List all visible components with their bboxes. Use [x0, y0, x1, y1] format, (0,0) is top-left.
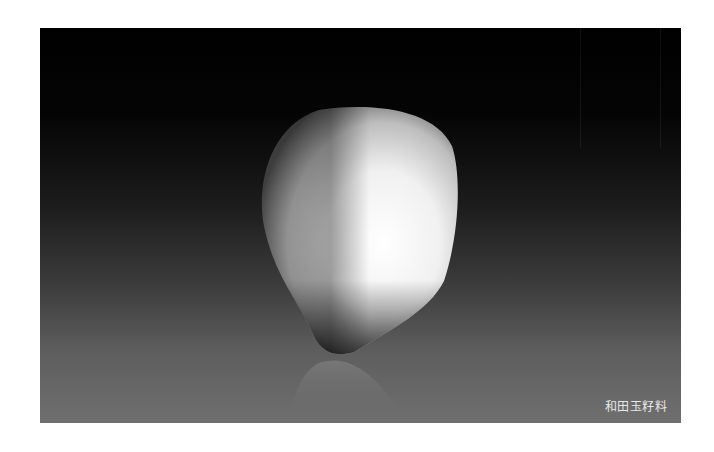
- stone-reflection: [282, 358, 412, 423]
- photo-caption: 和田玉籽料: [605, 397, 668, 414]
- product-photo: 和田玉籽料: [40, 28, 681, 423]
- jade-stone: [259, 106, 460, 356]
- light-streak: [660, 28, 661, 148]
- light-streak: [580, 28, 581, 148]
